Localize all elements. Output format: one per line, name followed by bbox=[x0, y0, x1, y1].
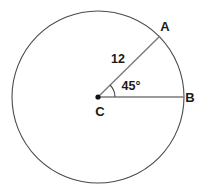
point-label-b: B bbox=[185, 90, 194, 105]
circle-diagram-canvas: A B C 12 45° bbox=[0, 0, 203, 193]
geometry-figure: A B C 12 45° bbox=[0, 0, 203, 193]
center-point-dot bbox=[95, 94, 100, 99]
radius-length-label: 12 bbox=[111, 52, 125, 66]
point-label-c: C bbox=[95, 104, 105, 119]
central-angle-arc bbox=[110, 85, 115, 97]
point-label-a: A bbox=[160, 19, 170, 34]
central-angle-label: 45° bbox=[122, 79, 141, 93]
